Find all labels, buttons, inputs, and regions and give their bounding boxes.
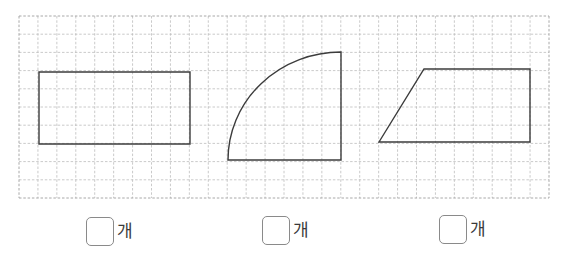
- answer-box-2[interactable]: [262, 216, 290, 245]
- answer-2: 개: [262, 216, 309, 245]
- quarter-circle-shape: [228, 52, 341, 160]
- unit-label-1: 개: [117, 223, 133, 240]
- trapezoid-shape: [379, 69, 530, 142]
- answer-1: 개: [86, 217, 133, 246]
- grid: [19, 16, 549, 198]
- rectangle-shape: [39, 72, 190, 144]
- answer-box-3[interactable]: [439, 215, 467, 244]
- answer-box-1[interactable]: [86, 217, 114, 246]
- unit-label-3: 개: [470, 221, 486, 238]
- answer-3: 개: [439, 215, 486, 244]
- shapes: [39, 52, 530, 160]
- unit-label-2: 개: [293, 222, 309, 239]
